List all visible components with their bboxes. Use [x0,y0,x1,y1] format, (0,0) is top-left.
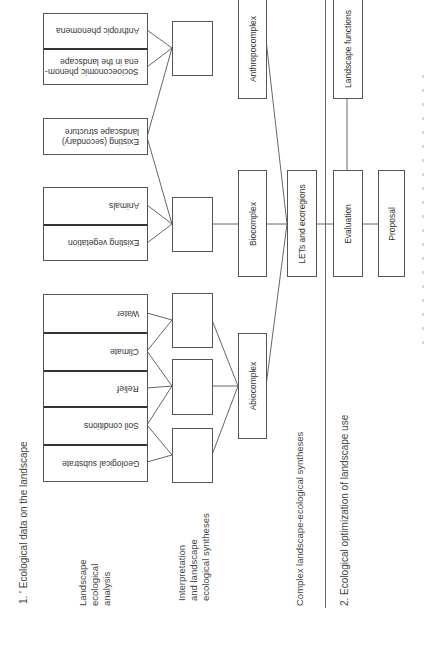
input-label-line: Socioeconomic phenom- [45,67,139,77]
row-label-line: analysis [101,560,113,606]
landscape-functions-box: Landscape functions [333,0,363,99]
abiocomplex-label: Abiocomplex [248,362,258,411]
input-label-line: Existing (secondary) [62,137,139,147]
row-label-line: and landscape [188,513,200,601]
input-label: Climate [110,347,139,357]
evaluation-label: Evaluation [343,204,353,244]
proposal-box: Proposal [378,170,405,277]
synthesis-box-soil-geology [172,428,213,483]
synthesis-box-climate-relief-soil [172,359,213,415]
biocomplex-label: Biocomplex [248,202,258,246]
synthesis-box-water-climate [172,293,213,348]
lets-ecoregions-box: LETs and ecoregions [287,170,317,277]
input-label: Existing vegetation [68,238,139,248]
input-label-line: ena in the landscape [45,57,139,67]
section-1-title-text: 1. ' Ecological data on the landscape [18,441,30,604]
row-label-interpretation: Interpretation and landscape ecological … [176,513,212,601]
row-label-line: ecological [89,560,101,606]
abiocomplex-box: Abiocomplex [238,333,267,439]
input-label: Soil conditions [84,421,139,431]
section-2-title-text: 2. Ecological optimization of landscape … [339,415,351,606]
input-label: Existing (secondary) landscape structure [62,127,139,147]
row-label-line: Complex landscape-ecological syntheses [294,432,306,606]
section-divider [325,0,326,608]
synthesis-box-anthropic [172,21,213,76]
row-label-analysis: Landscape ecological analysis [77,560,113,606]
input-label: Anthropic phenomena [56,26,139,36]
input-label: Geological substrate [62,459,140,469]
input-socioeconomic-phenomena: Socioeconomic phenom- ena in the landsca… [43,48,148,85]
input-soil-conditions: Soil conditions [43,406,148,445]
biocomplex-box: Biocomplex [238,170,267,277]
cropped-caption-fragment [422,75,424,355]
input-existing-landscape-structure: Existing (secondary) landscape structure [43,118,148,155]
input-anthropic-phenomena: Anthropic phenomena [43,13,148,49]
row-label-complex: Complex landscape-ecological syntheses [294,432,306,606]
evaluation-box: Evaluation [333,170,363,277]
input-water: Water [43,294,148,333]
input-geological-substrate: Geological substrate [43,444,148,482]
input-label-line: landscape structure [62,127,139,137]
section-1-title: 1. ' Ecological data on the landscape [18,441,30,604]
synthesis-box-biotic [172,197,213,252]
section-2-title: 2. Ecological optimization of landscape … [339,415,351,606]
input-relief: Relief [43,370,148,407]
row-label-line: Interpretation [176,513,188,601]
landscape-functions-label: Landscape functions [343,10,353,88]
input-label: Socioeconomic phenom- ena in the landsca… [45,57,139,77]
input-label: Relief [117,384,139,394]
anthropocomplex-label: Anthropocomplex [248,15,258,81]
input-label: Animals [109,201,139,211]
row-label-line: ecological syntheses [200,513,212,601]
lets-ecoregions-label: LETs and ecoregions [297,184,307,263]
input-animals: Animals [43,187,148,225]
input-label: Water [117,309,139,319]
row-label-line: Landscape [77,560,89,606]
proposal-label: Proposal [387,207,397,241]
input-existing-vegetation: Existing vegetation [43,224,148,261]
anthropocomplex-box: Anthropocomplex [238,0,267,99]
input-climate: Climate [43,332,148,371]
